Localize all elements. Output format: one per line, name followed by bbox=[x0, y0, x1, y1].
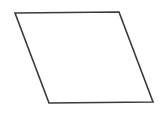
diagram-canvas bbox=[0, 0, 161, 129]
parallelogram-shape bbox=[15, 12, 153, 103]
